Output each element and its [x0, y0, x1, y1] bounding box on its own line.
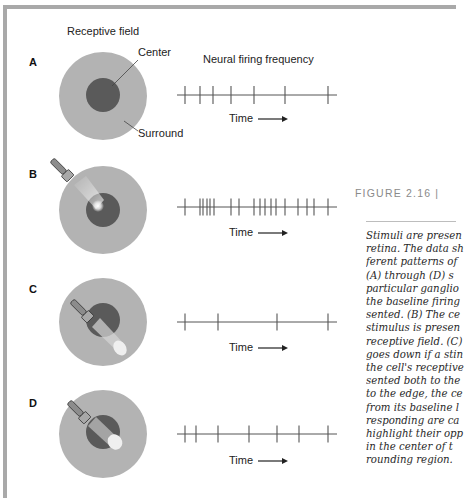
caption-line: to the edge, the ce: [366, 387, 468, 400]
caption-line: receptive field. (C): [366, 335, 468, 348]
caption-line: goes down if a stin: [366, 348, 468, 361]
spike-train-d: [177, 426, 337, 443]
time-arrow-icon: [258, 230, 288, 236]
time-axis-label-c: Time: [229, 341, 253, 353]
receptive-field-c: [59, 278, 147, 366]
spike-train-c: [177, 314, 337, 331]
spike-train-a: [177, 86, 337, 104]
time-arrow-icon: [258, 458, 288, 464]
caption-line: ferent patterns of: [366, 255, 468, 268]
time-axis-label-d: Time: [229, 454, 253, 466]
caption-line: rounding region.: [366, 453, 468, 466]
caption-line: the baseline firing: [366, 295, 468, 308]
caption-line: Stimuli are presen: [366, 229, 468, 242]
time-axis-label-a: Time: [229, 112, 253, 124]
time-arrow-icon: [258, 345, 288, 351]
caption-divider: [366, 221, 456, 222]
time-axis-label-b: Time: [229, 226, 253, 238]
caption-line: particular ganglio: [366, 282, 468, 295]
caption-line: sented both to the: [366, 374, 468, 387]
caption-line: in the center of t: [366, 440, 468, 453]
receptive-field-b: [49, 157, 147, 254]
spike-train-b: [177, 199, 337, 216]
caption-line: sented. (B) The ce: [366, 308, 468, 321]
caption-line: the cell's receptive: [366, 361, 468, 374]
caption-line: responding are ca: [366, 414, 468, 427]
figure-caption: Stimuli are presenretina. The data shfer…: [366, 229, 468, 467]
caption-line: from its baseline l: [366, 401, 468, 414]
caption-line: retina. The data sh: [366, 242, 468, 255]
caption-line: stimulus is presen: [366, 321, 468, 334]
flashlight-icon: [49, 157, 74, 182]
figure-number: FIGURE 2.16 |: [355, 187, 439, 199]
caption-line: highlight their opp: [366, 427, 468, 440]
receptive-field-a: [59, 52, 147, 140]
time-arrow-icon: [258, 116, 288, 122]
receptive-field-d: [59, 390, 147, 478]
caption-line: (A) through (D) s: [366, 269, 468, 282]
